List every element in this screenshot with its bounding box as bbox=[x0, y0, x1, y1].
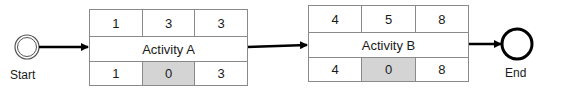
connectors bbox=[0, 0, 561, 91]
activity-b-slack: 0 bbox=[362, 58, 415, 81]
activity-b-late-start: 4 bbox=[309, 58, 362, 81]
activity-a-late-finish: 3 bbox=[195, 62, 247, 85]
activity-a-late-start: 1 bbox=[90, 62, 143, 85]
activity-b-duration: 5 bbox=[362, 6, 415, 32]
activity-b-title: Activity B bbox=[309, 33, 468, 57]
activity-a-early-start: 1 bbox=[90, 10, 143, 36]
arrow-a-to-b bbox=[247, 45, 307, 47]
start-label: Start bbox=[10, 68, 35, 82]
activity-a-duration: 3 bbox=[143, 10, 196, 36]
start-event-icon bbox=[15, 35, 39, 59]
activity-a-title: Activity A bbox=[90, 37, 247, 61]
activity-b-node[interactable]: 4 5 8 Activity B 4 0 8 bbox=[308, 5, 469, 82]
activity-a-early-finish: 3 bbox=[195, 10, 247, 36]
end-label: End bbox=[505, 66, 526, 80]
activity-a-slack: 0 bbox=[143, 62, 196, 85]
activity-b-early-start: 4 bbox=[309, 6, 362, 32]
activity-b-early-finish: 8 bbox=[416, 6, 468, 32]
activity-a-node[interactable]: 1 3 3 Activity A 1 0 3 bbox=[89, 9, 248, 86]
end-event-icon bbox=[502, 29, 532, 59]
activity-b-late-finish: 8 bbox=[416, 58, 468, 81]
